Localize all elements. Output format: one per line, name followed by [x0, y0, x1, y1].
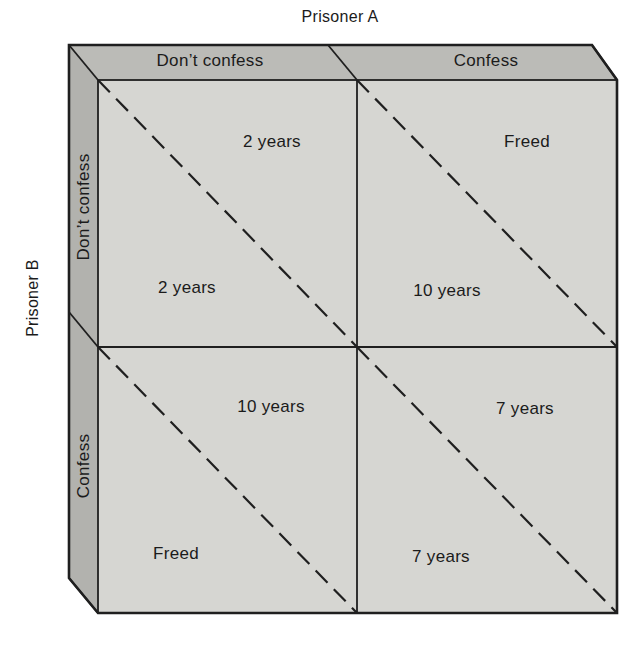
player-a-title: Prisoner A [302, 8, 379, 26]
payoff-bottom-right-upper: 7 years [496, 399, 554, 419]
payoff-bottom-left-upper: 10 years [237, 397, 305, 417]
payoff-top-left-lower: 2 years [158, 278, 216, 298]
column-header-dont-confess: Don’t confess [157, 51, 264, 71]
payoff-top-right-lower: 10 years [413, 281, 481, 301]
row-header-confess: Confess [74, 434, 94, 498]
row-header-dont-confess: Don’t confess [74, 154, 94, 261]
matrix-drawing [0, 0, 638, 648]
payoff-top-left-upper: 2 years [243, 132, 301, 152]
payoff-bottom-right-lower: 7 years [412, 547, 470, 567]
payoff-top-right-upper: Freed [504, 132, 550, 152]
payoff-matrix-figure: Prisoner A Prisoner B Don’t confess Conf… [0, 0, 638, 648]
column-header-confess: Confess [454, 51, 518, 71]
payoff-bottom-left-lower: Freed [153, 544, 199, 564]
player-b-title: Prisoner B [24, 259, 42, 337]
